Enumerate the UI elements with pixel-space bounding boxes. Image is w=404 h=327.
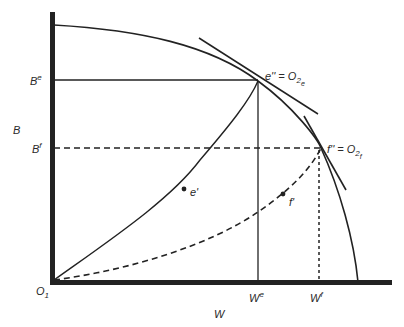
x-axis-label: W — [214, 308, 226, 320]
tick-label-we: We — [249, 290, 264, 304]
label-f-prime: f' — [289, 196, 295, 208]
y-axis — [50, 12, 55, 284]
y-axis-label: B — [13, 124, 20, 136]
point-f-prime — [281, 192, 286, 197]
label-f-double-prime: f'' = O2f — [327, 143, 363, 160]
contract-curve-f — [54, 148, 321, 280]
x-axis — [50, 280, 392, 285]
edgeworth-diagram: Be B Bf O1 We Wf W e'' = O2e f'' = O2f e… — [0, 0, 404, 327]
origin-label: O1 — [36, 285, 49, 300]
label-e-prime: e' — [190, 186, 199, 198]
tick-label-bf: Bf — [32, 141, 42, 155]
contract-curve-e — [54, 81, 258, 280]
point-e-prime — [182, 187, 187, 192]
tick-label-be: Be — [30, 73, 42, 87]
tick-label-wf: Wf — [310, 290, 323, 304]
